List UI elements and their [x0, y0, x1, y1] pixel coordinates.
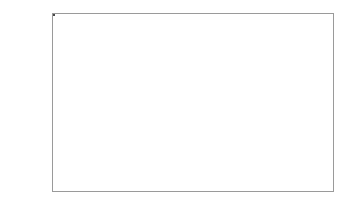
plot-frame — [52, 13, 334, 192]
box-plot-figure — [0, 0, 346, 207]
box-iqr-rect — [53, 14, 55, 16]
plot-area — [53, 14, 333, 191]
